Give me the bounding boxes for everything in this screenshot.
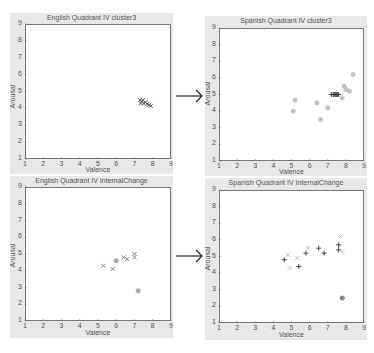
right-arrow-icon [176,90,202,102]
right-arrow-icon [176,250,202,262]
arrow-layer [0,0,374,353]
